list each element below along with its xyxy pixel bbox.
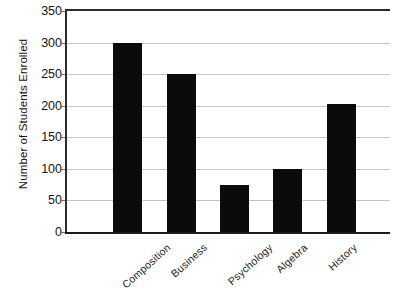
bar <box>167 74 196 232</box>
y-axis-tickmark <box>61 106 65 107</box>
y-axis-tickmark <box>61 232 65 233</box>
x-axis-category-label: History <box>326 241 359 273</box>
plot-area <box>65 9 390 234</box>
plot-frame-top <box>65 9 390 11</box>
x-axis-category-label: Business <box>168 241 209 280</box>
y-axis-tickmark <box>61 11 65 12</box>
x-axis-category-label: Psychology <box>225 241 274 287</box>
bar <box>327 104 356 232</box>
y-axis-tick-label: 100 <box>14 163 62 176</box>
bar-chart-figure: Number of Students Enrolled 050100150200… <box>0 0 395 293</box>
y-axis-tick-label: 300 <box>14 37 62 50</box>
y-axis-tick-label: 50 <box>14 194 62 207</box>
y-axis-tick-label: 150 <box>14 131 62 144</box>
bar <box>273 169 302 232</box>
y-axis-tick-label: 200 <box>14 100 62 113</box>
y-axis-tickmark <box>61 43 65 44</box>
bar <box>220 185 249 232</box>
x-axis-category-label: Algebra <box>274 241 310 275</box>
cropped-title-remnant <box>150 0 380 2</box>
y-axis-tickmark <box>61 200 65 201</box>
y-axis-tickmark <box>61 169 65 170</box>
y-axis-tick-label: 250 <box>14 68 62 81</box>
y-axis-tickmark <box>61 74 65 75</box>
y-axis-tick-label: 350 <box>14 5 62 18</box>
plot-frame-bottom <box>65 232 390 234</box>
y-axis-tick-label: 0 <box>14 226 62 239</box>
bar <box>113 43 142 232</box>
y-axis-tickmark <box>61 137 65 138</box>
plot-frame-left <box>65 9 67 234</box>
x-axis-category-label: Composition <box>119 241 172 290</box>
